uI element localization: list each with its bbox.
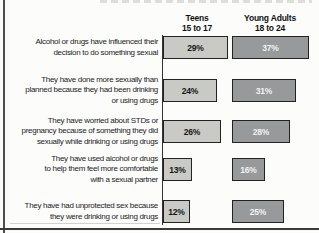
bottom-rule (0, 228, 319, 230)
column-header-young-adults-line2: 18 to 24 (232, 23, 308, 33)
column-header-teens-line1: Teens (163, 13, 231, 23)
row-label: Alcohol or drugs have influenced theirde… (6, 37, 158, 58)
row-label-line: They have done more sexually than (6, 75, 158, 86)
row-label-line: to help them feel more comfortable (6, 164, 158, 175)
column-header-teens-line2: 15 to 17 (163, 23, 231, 33)
row-label-line: planned because they had been drinking (6, 85, 158, 96)
row-label-line: They have used alcohol or drugs (6, 154, 158, 165)
teens-bar: 13% (163, 158, 192, 181)
young-adults-bar: 28% (232, 120, 290, 143)
row-label-line: They have had unprotected sex because (6, 201, 158, 212)
row-label-line: Alcohol or drugs have influenced their (6, 37, 158, 48)
cropped-text-artifact (100, 0, 312, 3)
row-label: They have used alcohol or drugsto help t… (6, 154, 158, 186)
row-label: They have worried about STDs orpregnancy… (6, 116, 158, 148)
bar-value-label: 12% (168, 207, 184, 217)
teens-bar: 24% (163, 79, 217, 102)
row-label-line: They have worried about STDs or (6, 116, 158, 127)
row-label-line: pregnancy because of something they did (6, 126, 158, 137)
young-adults-bar: 37% (232, 36, 309, 59)
row-label-line: they were drinking or using drugs (6, 212, 158, 223)
bar-value-label: 37% (262, 43, 278, 53)
bar-value-label: 29% (187, 43, 203, 53)
label-baseline-hairline (10, 223, 160, 224)
young-adults-bar: 25% (232, 200, 284, 223)
row-label-line: sexually while drinking or using drugs (6, 137, 158, 148)
column-header-young-adults-line1: Young Adults (232, 13, 308, 23)
bar-value-label: 16% (240, 165, 256, 175)
page-edge-line (3, 0, 5, 233)
bar-value-label: 28% (253, 127, 269, 137)
bar-value-label: 24% (182, 86, 198, 96)
young-adults-bar: 16% (232, 158, 265, 181)
row-label-line: with a sexual partner (6, 175, 158, 186)
teens-bar: 26% (163, 120, 221, 143)
row-label-line: decision to do something sexual (6, 48, 158, 59)
bar-value-label: 13% (169, 165, 185, 175)
bar-value-label: 31% (256, 86, 272, 96)
row-label-line: or using drugs (6, 96, 158, 107)
row-label: They have had unprotected sex becausethe… (6, 201, 158, 222)
column-header-young-adults: Young Adults 18 to 24 (232, 13, 308, 33)
young-adults-bar: 31% (232, 79, 296, 102)
survey-grouped-bar-chart: Teens 15 to 17 Young Adults 18 to 24 Alc… (0, 0, 319, 233)
bar-value-label: 26% (184, 127, 200, 137)
teens-bar: 12% (163, 200, 190, 223)
bar-value-label: 25% (250, 207, 266, 217)
column-header-teens: Teens 15 to 17 (163, 13, 231, 33)
row-label: They have done more sexually thanplanned… (6, 75, 158, 107)
teens-bar: 29% (163, 36, 228, 59)
